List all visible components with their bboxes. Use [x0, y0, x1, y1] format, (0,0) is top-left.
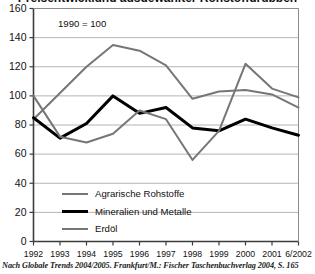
y-tick-label-20: 20 — [15, 206, 27, 218]
x-axis-tick-labels-group: 1992199319941995199619971998199920002001… — [24, 249, 312, 259]
x-tick-label-1992: 1992 — [24, 249, 43, 259]
x-tick-label-1999: 1999 — [209, 249, 228, 259]
y-tick-label-40: 40 — [15, 177, 27, 189]
series-line-erd-l — [34, 64, 299, 160]
y-tick-label-120: 120 — [9, 60, 27, 72]
y-axis-tick-labels-group: 020406080100120140160 — [9, 2, 27, 247]
legend-label-erdöl: Erdöl — [95, 223, 117, 234]
gridlines-group — [34, 9, 299, 213]
y-tick-label-80: 80 — [15, 118, 27, 130]
legend-label-mineralien-und-metalle: Mineralien und Metalle — [95, 206, 192, 217]
index-base-annotation: 1990 = 100 — [58, 18, 106, 29]
series-line-mineralien-und-metalle — [34, 96, 299, 138]
x-tick-label-2001: 2001 — [262, 249, 281, 259]
x-tick-label-1994: 1994 — [77, 249, 96, 259]
source-citation: Nach Globale Trends 2004/2005. Frankfurt… — [2, 261, 315, 271]
legend-label-agrarische-rohstoffe: Agrarische Rohstoffe — [95, 188, 184, 199]
x-tick-label-1998: 1998 — [183, 249, 202, 259]
y-tick-label-160: 160 — [9, 2, 27, 14]
y-tick-label-60: 60 — [15, 147, 27, 159]
x-tick-label-1995: 1995 — [103, 249, 122, 259]
y-tick-label-140: 140 — [9, 31, 27, 43]
x-tick-label-1996: 1996 — [130, 249, 149, 259]
price-index-line-chart: 020406080100120140160 199219931994199519… — [0, 0, 315, 262]
chart-figure: Preisentwicklung ausgewählter Rohstoffgr… — [0, 0, 315, 274]
data-series-group — [34, 45, 299, 160]
chart-legend: Agrarische RohstoffeMineralien und Metal… — [62, 188, 192, 234]
x-tick-label-1997: 1997 — [156, 249, 175, 259]
y-tick-label-100: 100 — [9, 89, 27, 101]
x-tick-label-2000: 2000 — [236, 249, 255, 259]
y-tick-label-0: 0 — [21, 235, 27, 247]
x-tick-label-1993: 1993 — [50, 249, 69, 259]
x-tick-label-6/2002: 6/2002 — [285, 249, 312, 259]
